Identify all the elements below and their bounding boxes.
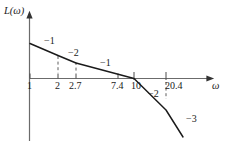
- tick-label-2-7: 2.7: [69, 81, 82, 91]
- x-axis-label: ω: [212, 81, 219, 92]
- slope-label-segment-1: −1: [44, 36, 55, 46]
- slope-label-segment-3: −1: [100, 58, 111, 68]
- bode-plot-figure: L(ω) ω 1 2 2.7 7.4 10 20.4 −1 −2 −1 −2 −…: [0, 0, 231, 149]
- slope-label-segment-2: −2: [68, 48, 79, 58]
- tick-label-2: 2: [55, 81, 60, 91]
- slope-label-segment-5: −3: [186, 114, 197, 124]
- tick-label-7-4: 7.4: [111, 81, 124, 91]
- tick-label-10: 10: [131, 81, 141, 91]
- slope-label-segment-4: −2: [148, 89, 159, 99]
- tick-label-20-4: 20.4: [165, 81, 183, 91]
- tick-label-1: 1: [27, 81, 32, 91]
- plot-canvas: [0, 0, 231, 149]
- y-axis-label: L(ω): [4, 6, 24, 17]
